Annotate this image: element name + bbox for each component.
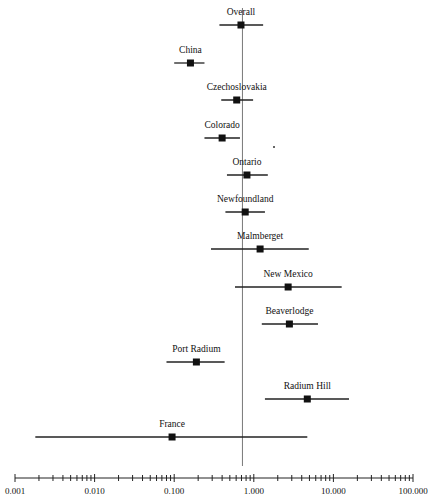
study-label: Port Radium <box>172 344 221 354</box>
point-estimate-marker <box>219 135 226 142</box>
x-tick-label: 0.100 <box>164 486 185 496</box>
x-tick-label: 100.000 <box>398 486 428 496</box>
study-label: Overall <box>227 7 256 17</box>
study-label: Colorado <box>204 120 240 130</box>
study-label: France <box>159 419 185 429</box>
study-row: Colorado <box>204 120 240 142</box>
study-label: Malmberget <box>237 231 284 241</box>
point-estimate-marker <box>257 246 264 253</box>
study-row: France <box>35 419 307 441</box>
stray-dot <box>273 146 275 148</box>
study-row: Port Radium <box>166 344 224 366</box>
study-label: Radium Hill <box>284 381 332 391</box>
forest-plot: OverallChinaCzechoslovakiaColoradoOntari… <box>0 0 432 503</box>
study-row: Czechoslovakia <box>207 82 268 104</box>
point-estimate-marker <box>285 284 292 291</box>
study-row: China <box>174 45 204 67</box>
x-axis: 0.0010.0100.1001.00010.000100.000 <box>5 474 428 496</box>
study-row: Ontario <box>227 157 268 179</box>
x-tick-label: 0.010 <box>84 486 105 496</box>
study-row: Radium Hill <box>265 381 349 403</box>
point-estimate-marker <box>237 22 244 29</box>
point-estimate-marker <box>193 359 200 366</box>
point-estimate-marker <box>233 97 240 104</box>
point-estimate-marker <box>286 321 293 328</box>
point-estimate-marker <box>242 209 249 216</box>
x-tick-label: 0.001 <box>5 486 25 496</box>
study-label: China <box>179 45 202 55</box>
study-label: Ontario <box>232 157 261 167</box>
point-estimate-marker <box>169 434 176 441</box>
study-row: Newfoundland <box>217 194 274 216</box>
study-label: Newfoundland <box>217 194 274 204</box>
study-label: Beaverlodge <box>265 306 313 316</box>
point-estimate-marker <box>243 172 250 179</box>
study-row: Beaverlodge <box>262 306 318 328</box>
study-row: New Mexico <box>235 269 342 291</box>
point-estimate-marker <box>304 396 311 403</box>
study-row: Overall <box>219 7 263 29</box>
study-rows: OverallChinaCzechoslovakiaColoradoOntari… <box>35 7 349 441</box>
x-tick-label: 10.000 <box>321 486 346 496</box>
study-row: Malmberget <box>211 231 309 253</box>
study-label: New Mexico <box>263 269 313 279</box>
x-tick-label: 1.000 <box>244 486 265 496</box>
study-label: Czechoslovakia <box>207 82 268 92</box>
point-estimate-marker <box>187 60 194 67</box>
